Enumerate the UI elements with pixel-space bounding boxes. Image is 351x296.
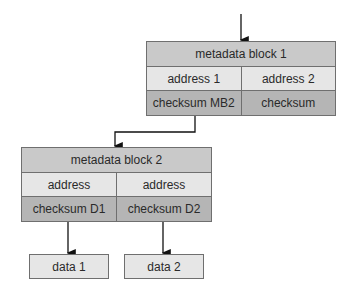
block-title: metadata block 2 (22, 148, 211, 172)
metadata-block-2: metadata block 2 address address checksu… (21, 147, 212, 222)
checksum-cell: checksum D2 (116, 197, 211, 221)
data-block-2: data 2 (124, 254, 204, 279)
metadata-block-1: metadata block 1 address 1 address 2 che… (146, 41, 336, 116)
checksum-cell: checksum D1 (22, 197, 116, 221)
address-cell: address (22, 173, 116, 196)
address-cell: address 2 (241, 67, 336, 90)
checksum-cell: checksum (241, 91, 336, 115)
address-cell: address 1 (147, 67, 241, 90)
address-cell: address (116, 173, 211, 196)
block-title: metadata block 1 (147, 42, 335, 66)
data-block-1: data 1 (29, 254, 109, 279)
checksum-cell: checksum MB2 (147, 91, 241, 115)
